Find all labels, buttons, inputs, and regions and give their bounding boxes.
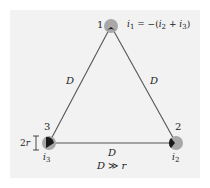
- condition-label: D ≫ r: [97, 161, 126, 171]
- conductor-3: [42, 136, 56, 150]
- node-label-3: 3: [44, 122, 50, 132]
- current-label-i2: i2: [172, 153, 179, 164]
- conductor-2: [169, 136, 183, 150]
- edge-label-right: D: [150, 76, 158, 86]
- node-label-2: 2: [175, 122, 181, 132]
- edge-1-3: [49, 26, 111, 143]
- conductor-1: [104, 19, 118, 33]
- radius-label: 2r: [20, 139, 30, 148]
- current-label-i3: i3: [43, 153, 50, 164]
- radius-dimension: [33, 136, 39, 150]
- edge-label-bottom: D: [108, 148, 116, 158]
- node-label-1: 1: [97, 20, 103, 30]
- current-relation: i1 = −(i2 + i3): [127, 20, 190, 31]
- edge-label-left: D: [66, 76, 74, 86]
- edge-1-2: [111, 26, 176, 143]
